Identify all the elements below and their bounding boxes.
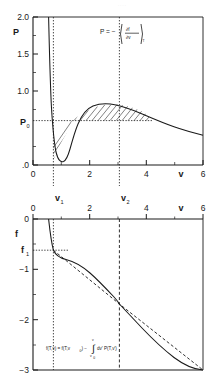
f1-axis-label: f 1 [21,245,29,257]
p0-label-sub: 0 [27,123,30,129]
pressure-definition-annotation: P = − ∂f ∂v T [100,24,145,44]
v2-label-sub: 2 [127,199,130,205]
thermodynamics-figure: . . . . 2.0 1.5 1.0 .0 P 0 P [0,0,210,387]
top-ylabel: P [13,27,19,37]
formula-part3: dv′ P(T,v′) [97,346,117,351]
annotation-denominator: ∂v [126,35,131,40]
bottom-ytick-label-0: 0 [24,214,29,224]
bottom-ytick-label-minus2: −2 [19,315,29,325]
top-ytick-label-0: .0 [22,160,29,170]
formula-part2: ) − [82,346,88,351]
top-xlabel: v [178,169,183,179]
integral-lower-limit-sub: 0 [93,356,95,360]
bottom-ytick-label-minus3: −3 [19,365,29,375]
hatch-upper-area [62,96,166,128]
v1-label-sub: 1 [61,199,64,205]
annotation-subscript-T: T [143,39,145,43]
annotation-lhs: P = − [100,28,116,35]
ghost-caption: . . . . [118,2,126,7]
v2-label-main: v [121,193,126,203]
mid-axis-panel: 0 2 4 6 v 0 v 1 v 2 [24,193,205,224]
free-energy-curve [49,219,203,370]
top-xtick-label-6: 6 [201,169,206,179]
top-ytick-label-1.5: 1.5 [17,49,29,59]
mid-xtick-label-0: 0 [31,203,36,213]
f1-label-sub: 1 [26,251,29,257]
figure-container: . . . . 2.0 1.5 1.0 .0 P 0 P [0,0,210,387]
free-energy-formula-annotation: f(T,v) = f(T,v 0 ) − ∫ v v 0 dv′ P(T,v′) [46,338,117,360]
v1-marker-label: v 1 [55,193,64,205]
p0-axis-label: P 0 [20,117,30,129]
v1-label-main: v [55,193,60,203]
f1-label-main: f [21,245,25,255]
mid-xlabel: v [178,203,183,213]
top-ytick-label-1.0: 1.0 [17,86,29,96]
top-xtick-label-4: 4 [144,169,149,179]
top-ytick-label-2.0: 2.0 [17,12,29,22]
formula-part1: f(T,v) = f(T,v [46,346,71,351]
integral-lower-limit: v [90,354,92,358]
annotation-numerator: ∂f [126,27,130,32]
v2-marker-label: v 2 [121,193,130,205]
bottom-panel: −1 −2 −3 f 1 f f(T,v) = f(T,v 0 ) − ∫ v … [15,219,203,375]
p0-label-main: P [20,117,26,127]
mid-xtick-label-2: 2 [87,203,92,213]
integral-upper-limit: v [92,338,94,342]
common-tangent-line [53,250,203,370]
bottom-ytick-label-minus1: −1 [19,264,29,274]
top-xtick-label-2: 2 [87,169,92,179]
bottom-ylabel: f [15,229,19,239]
integral-sign: ∫ [91,343,96,354]
mid-xtick-label-4: 4 [144,203,149,213]
top-panel: 2.0 1.5 1.0 .0 P 0 P 0 2 4 6 v P = − ∂f … [13,12,206,186]
mid-xtick-label-6: 6 [201,203,206,213]
paren-left [121,24,123,44]
top-xtick-label-0: 0 [31,169,36,179]
